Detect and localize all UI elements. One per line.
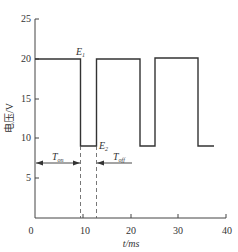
y-tick-label-5: 5 xyxy=(26,172,31,183)
x-tick-label-0: 0 xyxy=(29,225,34,236)
y-tick-label-25: 25 xyxy=(21,13,31,24)
voltage-pulse-chart: 25 20 15 10 5 0 10 20 30 40 t/ms 电压/V E1… xyxy=(0,0,238,252)
ton-label: Ton xyxy=(52,151,64,163)
dashed-guides xyxy=(81,146,97,218)
toff-label: Toff xyxy=(113,151,126,163)
y-tick-label-15: 15 xyxy=(21,93,31,104)
e2-label: E2 xyxy=(98,140,108,152)
y-tick-label-10: 10 xyxy=(21,132,31,143)
x-axis-title: t/ms xyxy=(123,238,140,249)
x-tick-label-30: 30 xyxy=(173,225,183,236)
x-tick-label-20: 20 xyxy=(126,225,136,236)
pulse-waveform xyxy=(35,58,214,146)
x-tick-label-40: 40 xyxy=(222,225,232,236)
y-axis-title: 电压/V xyxy=(3,102,15,133)
e1-label: E1 xyxy=(75,46,85,58)
x-tick-label-10: 10 xyxy=(80,225,90,236)
y-tick-label-20: 20 xyxy=(21,53,31,64)
